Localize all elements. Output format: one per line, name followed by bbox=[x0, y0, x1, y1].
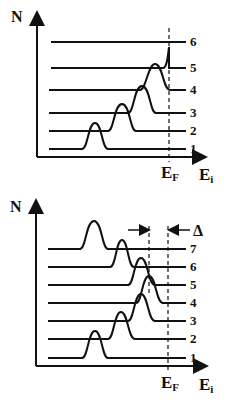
level-label-2: 2 bbox=[190, 331, 197, 346]
level-label-5: 5 bbox=[190, 60, 197, 75]
level-7-curve bbox=[48, 221, 186, 249]
x-axis-label: Ei bbox=[199, 375, 213, 395]
level-label-2: 2 bbox=[190, 123, 197, 138]
fermi-label: EF bbox=[161, 163, 179, 183]
level-2-curve bbox=[49, 104, 186, 131]
level-label-5: 5 bbox=[190, 277, 197, 292]
level-5-curve bbox=[48, 258, 186, 285]
level-4-curve bbox=[48, 276, 186, 303]
y-axis-label: N bbox=[10, 198, 22, 215]
y-axis-label: N bbox=[11, 8, 23, 25]
level-label-3: 3 bbox=[190, 105, 197, 120]
level-1-curve bbox=[48, 331, 186, 358]
top-panel bbox=[37, 18, 200, 162]
level-5-curve bbox=[51, 47, 186, 68]
fermi-label: EF bbox=[161, 373, 179, 393]
level-label-4: 4 bbox=[190, 295, 197, 310]
level-6-curve bbox=[48, 240, 186, 267]
delta-label: Δ bbox=[193, 222, 203, 239]
level-2-curve bbox=[48, 312, 186, 339]
x-axis-label: Ei bbox=[199, 165, 213, 185]
bottom-panel bbox=[36, 206, 201, 370]
level-label-7: 7 bbox=[190, 241, 197, 256]
diagram: N 1 2 3 4 5 6 EF Ei N Δ 1 2 bbox=[0, 0, 231, 402]
top-panel-labels: N 1 2 3 4 5 6 EF Ei bbox=[11, 8, 213, 185]
level-label-3: 3 bbox=[190, 313, 197, 328]
level-label-6: 6 bbox=[190, 259, 197, 274]
level-label-4: 4 bbox=[190, 82, 197, 97]
level-label-1: 1 bbox=[190, 350, 197, 365]
level-label-6: 6 bbox=[190, 34, 197, 49]
level-label-1: 1 bbox=[190, 141, 197, 156]
level-1-curve bbox=[49, 123, 186, 149]
